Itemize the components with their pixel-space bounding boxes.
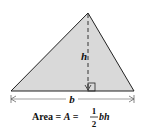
formula-prefix: Area = — [32, 111, 64, 122]
formula-suffix: bh — [99, 111, 110, 122]
formula-equals: = — [70, 111, 79, 122]
triangle-area-diagram: h b Area = A = 1 2 bh — [0, 0, 145, 136]
svg-text:Area = A =: Area = A = — [32, 111, 79, 122]
formula-numerator: 1 — [92, 106, 97, 116]
formula-denominator: 2 — [92, 119, 97, 129]
base-label: b — [69, 93, 75, 105]
height-label: h — [81, 50, 87, 62]
area-formula: Area = A = 1 2 bh — [32, 106, 110, 129]
triangle — [11, 13, 134, 91]
